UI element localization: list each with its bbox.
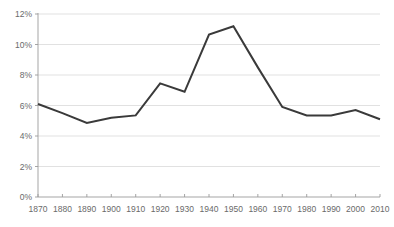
y-axis-tick-label: 8% [20,70,33,80]
x-axis-tick-label: 2010 [371,204,390,214]
x-axis-tick-label: 1910 [126,204,145,214]
line-chart: 0%2%4%6%8%10%12% 18701880189019001910192… [0,0,394,227]
x-axis-tick-label: 2000 [346,204,365,214]
x-axis-tick-label: 1890 [77,204,96,214]
y-axis-tick-label: 12% [15,9,32,19]
x-axis-tick-label: 1960 [248,204,267,214]
x-axis-tick-label: 1970 [273,204,292,214]
x-axis-tick-labels: 1870188018901900191019201930194019501960… [29,204,390,214]
x-axis-tick-label: 1940 [200,204,219,214]
y-axis-tick-label: 0% [20,192,33,202]
x-axis-tick-label: 1920 [151,204,170,214]
y-axis-tick-label: 6% [20,101,33,111]
chart-canvas: 0%2%4%6%8%10%12% 18701880189019001910192… [0,0,394,227]
x-axis-tick-label: 1950 [224,204,243,214]
x-axis-tick-label: 1980 [297,204,316,214]
y-axis-tick-label: 4% [20,131,33,141]
y-axis [35,13,38,197]
x-axis-tick-label: 1930 [175,204,194,214]
x-axis [38,194,380,197]
y-axis-tick-label: 10% [15,40,32,50]
x-axis-tick-label: 1870 [29,204,48,214]
x-axis-tick-label: 1900 [102,204,121,214]
y-axis-tick-labels: 0%2%4%6%8%10%12% [15,9,32,202]
x-axis-tick-label: 1880 [53,204,72,214]
x-axis-tick-label: 1990 [322,204,341,214]
y-axis-tick-label: 2% [20,162,33,172]
